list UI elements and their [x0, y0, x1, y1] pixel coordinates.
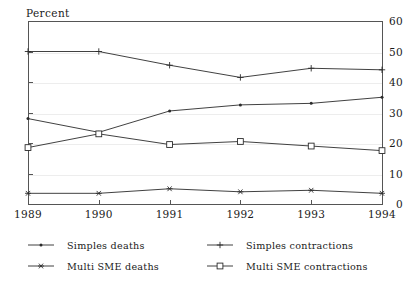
data-point-square — [238, 139, 244, 145]
data-point-plus — [217, 242, 223, 248]
data-point-square — [25, 145, 31, 151]
data-point-dot — [381, 96, 384, 99]
data-point-asterisk — [38, 264, 44, 269]
legend-item[interactable]: Multi SME contractions — [205, 260, 368, 272]
data-point-asterisk — [308, 188, 314, 193]
legend-marker-asterisk-icon — [26, 260, 56, 272]
data-point-asterisk — [167, 186, 173, 191]
data-point-asterisk — [96, 191, 102, 196]
legend-marker-square-icon — [205, 260, 235, 272]
chart-figure: Percent 0102030405060 198919901991199219… — [0, 0, 403, 286]
legend-item-label: Multi SME deaths — [67, 261, 159, 272]
data-point-square — [96, 131, 102, 137]
data-point-dot — [168, 109, 171, 112]
chart-legend: Simples deathsSimples contractionsMulti … — [0, 236, 403, 284]
legend-item[interactable]: Simples contractions — [205, 239, 353, 251]
data-point-asterisk — [237, 189, 243, 194]
data-point-square — [167, 142, 173, 148]
series-simples-contractions — [25, 48, 385, 80]
data-point-asterisk — [379, 191, 385, 196]
data-point-square — [217, 263, 223, 269]
series-multi-sme-contractions — [25, 131, 385, 154]
data-point-plus — [25, 48, 31, 54]
data-point-square — [379, 148, 385, 154]
data-point-asterisk — [25, 191, 31, 196]
legend-item[interactable]: Multi SME deaths — [26, 260, 159, 272]
data-point-plus — [166, 62, 172, 68]
legend-item-label: Multi SME contractions — [246, 261, 368, 272]
data-point-dot — [40, 244, 43, 247]
legend-marker-dot-icon — [26, 239, 56, 251]
data-point-dot — [310, 102, 313, 105]
data-point-plus — [308, 65, 314, 71]
legend-item[interactable]: Simples deaths — [26, 239, 145, 251]
data-point-dot — [239, 103, 242, 106]
data-point-dot — [27, 117, 30, 120]
data-point-plus — [379, 67, 385, 73]
series-multi-sme-deaths — [25, 186, 385, 195]
data-point-square — [308, 143, 314, 149]
legend-marker-plus-icon — [205, 239, 235, 251]
series-simples-deaths — [27, 96, 384, 134]
data-point-plus — [96, 48, 102, 54]
data-point-plus — [237, 74, 243, 80]
legend-item-label: Simples deaths — [67, 240, 145, 251]
legend-item-label: Simples contractions — [246, 240, 353, 251]
